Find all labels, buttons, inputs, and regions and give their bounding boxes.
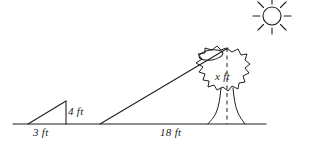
label-small-triangle-height: 4 ft [68, 106, 84, 117]
sun-icon [253, 0, 291, 34]
label-large-triangle-base: 18 ft [160, 127, 181, 138]
label-tree-height: x ft [215, 71, 230, 82]
tree-trunk-right [233, 88, 245, 124]
large-triangle-hypotenuse [100, 48, 228, 124]
tree-branch-ellipse [198, 48, 223, 62]
label-small-triangle-base: 3 ft [33, 127, 49, 138]
diagram-figure [0, 0, 309, 146]
geometry-diagram: 3 ft 4 ft 18 ft x ft [0, 0, 309, 146]
tree-trunk-left [208, 88, 221, 124]
small-triangle-hypotenuse [28, 101, 66, 124]
